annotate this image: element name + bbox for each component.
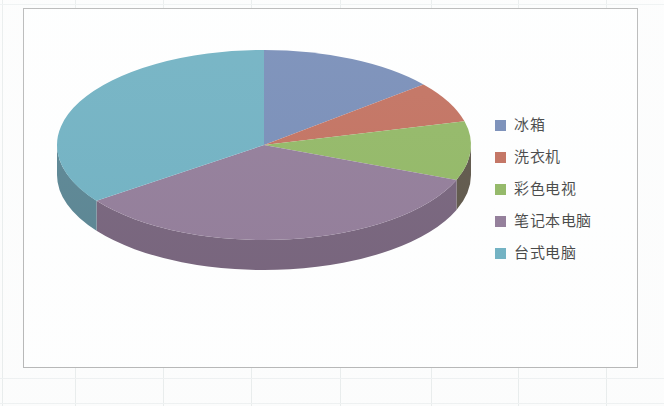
chart-object-frame[interactable]: 冰箱 洗衣机 彩色电视 笔记本电脑 台式电脑 [23,8,638,368]
legend-label: 笔记本电脑 [514,214,592,229]
legend-item-colortv[interactable]: 彩色电视 [495,173,627,205]
legend-label: 冰箱 [514,118,545,133]
grid-line-horizontal [0,378,664,379]
legend-swatch-icon [495,120,506,131]
legend-label: 彩色电视 [514,182,576,197]
chart-legend: 冰箱 洗衣机 彩色电视 笔记本电脑 台式电脑 [495,109,627,269]
legend-swatch-icon [495,248,506,259]
legend-item-washer[interactable]: 洗衣机 [495,141,627,173]
grid-line-horizontal [0,4,664,5]
plot-area: 冰箱 洗衣机 彩色电视 笔记本电脑 台式电脑 [24,9,637,367]
screenshot-root: 冰箱 洗衣机 彩色电视 笔记本电脑 台式电脑 [0,0,664,406]
legend-item-desktop[interactable]: 台式电脑 [495,237,627,269]
grid-line-horizontal [0,403,664,404]
legend-label: 洗衣机 [514,150,561,165]
legend-swatch-icon [495,152,506,163]
legend-swatch-icon [495,184,506,195]
pie-top-sectors [57,50,471,240]
legend-item-refrigerator[interactable]: 冰箱 [495,109,627,141]
legend-item-notebook[interactable]: 笔记本电脑 [495,205,627,237]
legend-swatch-icon [495,216,506,227]
grid-line-vertical [2,0,3,406]
legend-label: 台式电脑 [514,246,576,261]
